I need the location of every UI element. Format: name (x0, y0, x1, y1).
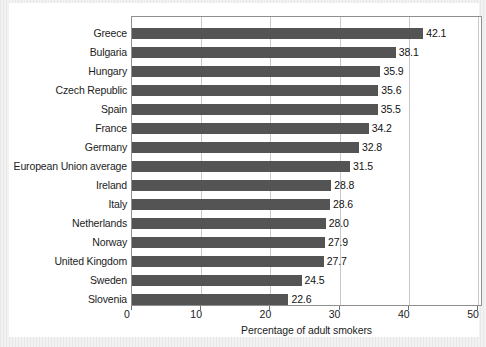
bar (132, 104, 378, 115)
bar-row: Sweden24.5 (131, 271, 482, 290)
bar-value-label: 34.2 (369, 119, 392, 138)
x-tick-label: 10 (190, 308, 202, 320)
bar (132, 66, 380, 77)
bar-value-label: 31.5 (350, 157, 373, 176)
category-label: Spain (101, 100, 131, 119)
category-label: Czech Republic (56, 81, 131, 100)
bar (132, 28, 423, 39)
bar-value-label: 35.9 (380, 62, 403, 81)
x-axis: 01020304050 (131, 306, 482, 322)
bar-row: Czech Republic35.6 (131, 81, 482, 100)
bar-value-label: 27.7 (324, 252, 347, 271)
category-label: Hungary (88, 62, 131, 81)
x-tick-label: 20 (260, 308, 272, 320)
bar-row: Spain35.5 (131, 100, 482, 119)
bar (132, 142, 359, 153)
bar-value-label: 35.6 (378, 81, 401, 100)
category-label: Netherlands (72, 214, 131, 233)
category-label: European Union average (14, 157, 131, 176)
x-tick-label: 30 (329, 308, 341, 320)
bar (132, 47, 396, 58)
category-label: Slovenia (88, 290, 131, 309)
bar-row: Italy28.6 (131, 195, 482, 214)
bar-row: Ireland28.8 (131, 176, 482, 195)
bar (132, 85, 378, 96)
bar-row: Hungary35.9 (131, 62, 482, 81)
bar-value-label: 24.5 (302, 271, 325, 290)
x-tick-label: 40 (398, 308, 410, 320)
bar-row: Greece42.1 (131, 24, 482, 43)
category-label: France (95, 119, 131, 138)
bar-row: European Union average31.5 (131, 157, 482, 176)
bar-value-label: 27.9 (325, 233, 348, 252)
bar-row: France34.2 (131, 119, 482, 138)
x-axis-title: Percentage of adult smokers (131, 324, 482, 336)
bar (132, 256, 324, 267)
bar (132, 218, 326, 229)
x-tick-label: 50 (467, 308, 479, 320)
category-label: Ireland (96, 176, 131, 195)
bar-value-label: 35.5 (378, 100, 401, 119)
category-label: Norway (92, 233, 131, 252)
bar (132, 275, 302, 286)
bar (132, 123, 369, 134)
bar-row: Bulgaria38.1 (131, 43, 482, 62)
category-label: Greece (93, 24, 131, 43)
category-label: United Kingdom (54, 252, 131, 271)
x-tick-label: 0 (124, 308, 130, 320)
x-tick-mark (131, 306, 132, 310)
category-label: Germany (85, 138, 131, 157)
chart-page: Greece42.1Bulgaria38.1Hungary35.9Czech R… (0, 0, 486, 347)
bar (132, 161, 350, 172)
bar-value-label: 32.8 (359, 138, 382, 157)
bar-value-label: 28.6 (330, 195, 353, 214)
bar (132, 237, 325, 248)
bar (132, 199, 330, 210)
category-label: Italy (108, 195, 131, 214)
category-label: Bulgaria (90, 43, 131, 62)
bar (132, 180, 331, 191)
category-label: Sweden (90, 271, 131, 290)
bar-value-label: 42.1 (423, 24, 446, 43)
bar-row: United Kingdom27.7 (131, 252, 482, 271)
bar-value-label: 28.0 (326, 214, 349, 233)
bar-value-label: 38.1 (396, 43, 419, 62)
bar-row: Germany32.8 (131, 138, 482, 157)
bar-value-label: 28.8 (331, 176, 354, 195)
chart-sheet: Greece42.1Bulgaria38.1Hungary35.9Czech R… (9, 3, 479, 337)
bar-row: Norway27.9 (131, 233, 482, 252)
bar-row: Netherlands28.0 (131, 214, 482, 233)
bar (132, 294, 288, 305)
